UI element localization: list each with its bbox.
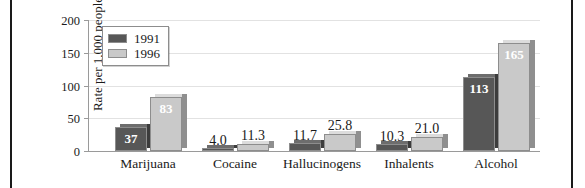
bar-side-face xyxy=(530,40,535,148)
y-tick-150 xyxy=(84,53,88,54)
x-category-label-cocaine: Cocaine xyxy=(185,156,285,172)
bar-front-face xyxy=(411,137,443,151)
y-tick-0 xyxy=(84,151,88,152)
bar-value-1996-marijuana: 83 xyxy=(150,102,182,115)
x-category-label-alcohol: Alcohol xyxy=(446,156,546,172)
bar-value-1996-inhalents: 21.0 xyxy=(403,122,451,136)
bar-1996-cocaine xyxy=(237,144,269,151)
bar-1996-inhalents xyxy=(411,137,443,151)
bar-side-face xyxy=(182,94,187,148)
y-tick-200 xyxy=(84,20,88,21)
figure-left-border xyxy=(10,0,12,188)
legend-item-1991: 1991 xyxy=(108,31,160,46)
bar-chart-figure: 200 150 100 50 0 Rate per 1,000 people 3… xyxy=(0,0,585,188)
x-category-label-hallucinogens: Hallucinogens xyxy=(272,156,372,172)
legend-item-1996: 1996 xyxy=(108,46,160,61)
legend-swatch-1996-icon xyxy=(108,49,127,58)
bar-front-face xyxy=(324,134,356,151)
legend-label-1996: 1996 xyxy=(134,47,160,60)
plot-area: 200 150 100 50 0 Rate per 1,000 people 3… xyxy=(88,20,540,151)
y-tick-label-50: 50 xyxy=(46,113,80,126)
legend-label-1991: 1991 xyxy=(134,32,160,45)
y-axis-line xyxy=(88,20,89,151)
bar-side-face xyxy=(356,131,361,148)
y-tick-label-200: 200 xyxy=(46,15,80,28)
x-axis-line xyxy=(88,151,540,152)
bar-value-1996-cocaine: 11.3 xyxy=(229,129,277,143)
x-category-label-inhalents: Inhalents xyxy=(359,156,459,172)
bar-value-1991-alcohol: 113 xyxy=(463,82,495,95)
bar-1996-hallucinogens xyxy=(324,134,356,151)
bar-value-1991-marijuana: 37 xyxy=(115,132,147,145)
legend-swatch-1991-icon xyxy=(108,34,127,43)
y-tick-50 xyxy=(84,118,88,119)
chart-legend: 1991 1996 xyxy=(102,26,169,66)
bar-side-face xyxy=(443,134,448,148)
gridline-200 xyxy=(88,20,540,21)
bar-1991-inhalents xyxy=(376,144,408,151)
bar-front-face xyxy=(376,144,408,151)
bar-front-face xyxy=(289,143,321,151)
bar-front-face xyxy=(202,148,234,151)
bar-front-face xyxy=(237,144,269,151)
y-tick-label-100: 100 xyxy=(46,81,80,94)
figure-right-border xyxy=(571,0,573,188)
bar-value-1996-hallucinogens: 25.8 xyxy=(316,119,364,133)
y-tick-label-150: 150 xyxy=(46,48,80,61)
bar-1991-hallucinogens xyxy=(289,143,321,151)
bar-1991-cocaine xyxy=(202,148,234,151)
y-tick-label-0: 0 xyxy=(46,146,80,159)
bar-value-1996-alcohol: 165 xyxy=(498,48,530,61)
x-category-label-marijuana: Marijuana xyxy=(98,156,198,172)
y-tick-100 xyxy=(84,86,88,87)
